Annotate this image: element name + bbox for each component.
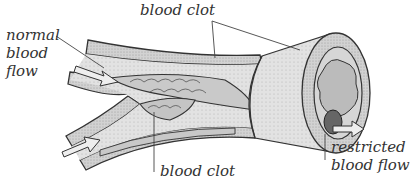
label-line: blood flow: [331, 156, 410, 174]
label-normal-blood-flow: normal blood flow: [6, 26, 60, 80]
label-blood-clot-top: blood clot: [140, 1, 215, 19]
label-line: blood: [6, 44, 60, 62]
label-line: restricted: [331, 138, 410, 156]
label-line: normal: [6, 26, 60, 44]
label-blood-clot-bottom: blood clot: [160, 162, 235, 180]
label-line: flow: [6, 62, 60, 80]
clot-cross-section: [317, 60, 358, 117]
label-restricted-blood-flow: restricted blood flow: [331, 138, 410, 174]
